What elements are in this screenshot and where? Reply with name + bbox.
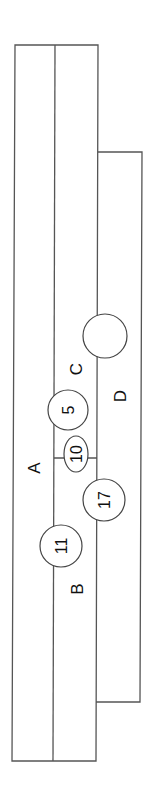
region-c-label: C bbox=[67, 363, 86, 375]
marker-5-label: 5 bbox=[60, 405, 77, 414]
layout-diagram: 5 10 17 11 A B C D bbox=[0, 0, 148, 805]
marker-10: 10 bbox=[64, 436, 88, 472]
marker-11-label: 11 bbox=[53, 538, 70, 555]
marker-17: 17 bbox=[83, 479, 125, 521]
marker-5: 5 bbox=[48, 390, 88, 430]
empty-circle-marker bbox=[83, 314, 127, 358]
region-d-label: D bbox=[111, 390, 130, 402]
region-a-label: A bbox=[25, 462, 44, 474]
marker-17-label: 17 bbox=[96, 491, 113, 509]
marker-11: 11 bbox=[40, 525, 82, 567]
region-b-label: B bbox=[68, 583, 87, 594]
region-d-outline bbox=[96, 152, 142, 702]
marker-10-label: 10 bbox=[68, 445, 85, 463]
